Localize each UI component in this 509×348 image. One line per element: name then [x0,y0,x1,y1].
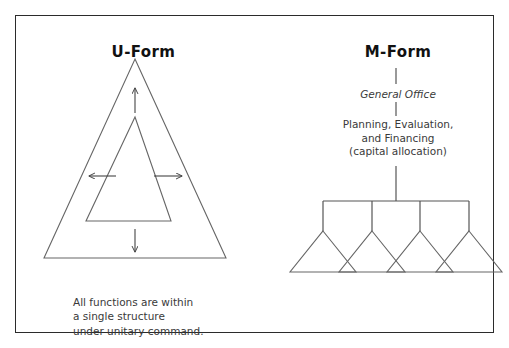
division-triangle-1 [290,231,356,272]
m-form-diagram [271,16,509,334]
division-triangle-2 [339,231,405,272]
figure-border: U-Form All functions are within a single [15,15,494,333]
u-form-diagram [16,16,271,334]
inner-triangle [86,117,171,221]
figure-canvas: U-Form All functions are within a single [0,0,509,348]
division-triangle-4 [436,231,502,272]
division-triangle-3 [387,231,453,272]
panel-m-form: M-Form General Office Planning, Evaluati… [271,16,509,332]
caption-u-form: All functions are within a single struct… [73,295,203,338]
panel-u-form: U-Form All functions are within a single [16,16,271,332]
